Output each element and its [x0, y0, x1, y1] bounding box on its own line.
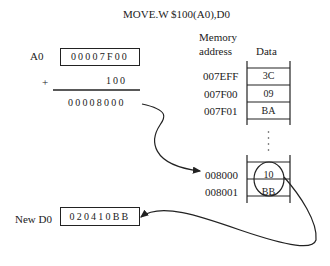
ellipsis-icon: [268, 131, 270, 151]
address-arrow: [142, 104, 200, 171]
memory-table-top: [247, 61, 290, 125]
diagram-lines: [0, 0, 330, 266]
